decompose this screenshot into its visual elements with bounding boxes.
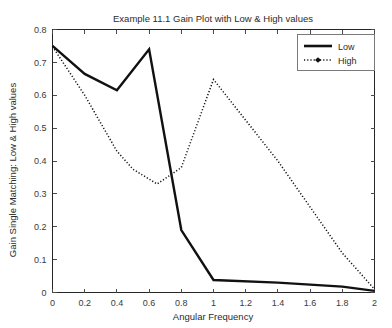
x-tick-label: 0.2 bbox=[78, 298, 91, 308]
series-line-low bbox=[53, 46, 375, 291]
legend-box bbox=[298, 35, 375, 71]
legend-label-low: Low bbox=[338, 42, 355, 52]
x-tick-label: 1.4 bbox=[272, 298, 285, 308]
x-axis-ticks: 00.20.40.60.811.21.41.61.82 bbox=[50, 30, 377, 308]
x-axis-title: Angular Frequency bbox=[173, 311, 254, 322]
x-tick-label: 0.8 bbox=[175, 298, 188, 308]
y-tick-label: 0.3 bbox=[34, 189, 47, 199]
y-tick-label: 0.6 bbox=[34, 90, 47, 100]
chart-legend: Low High bbox=[298, 35, 375, 71]
y-tick-label: 0.8 bbox=[34, 25, 47, 35]
y-tick-label: 0.2 bbox=[34, 222, 47, 232]
y-tick-label: 0.5 bbox=[34, 123, 47, 133]
data-series-layer bbox=[53, 46, 375, 291]
chart-figure: Example 11.1 Gain Plot with Low & High v… bbox=[0, 0, 392, 328]
y-tick-label: 0.4 bbox=[34, 156, 47, 166]
gain-plot-chart: Example 11.1 Gain Plot with Low & High v… bbox=[0, 0, 392, 328]
x-tick-label: 0.6 bbox=[143, 298, 156, 308]
x-tick-label: 2 bbox=[372, 298, 377, 308]
y-axis-title: Gain Single Matching: Low & High values bbox=[7, 83, 18, 258]
chart-title: Example 11.1 Gain Plot with Low & High v… bbox=[113, 13, 313, 24]
x-tick-label: 1.2 bbox=[239, 298, 252, 308]
y-tick-label: 0.7 bbox=[34, 58, 47, 68]
x-tick-label: 1.6 bbox=[304, 298, 317, 308]
x-tick-label: 0.4 bbox=[111, 298, 124, 308]
legend-label-high: High bbox=[338, 56, 357, 66]
y-tick-label: 0 bbox=[41, 288, 46, 298]
x-tick-label: 1.8 bbox=[336, 298, 349, 308]
x-tick-label: 1 bbox=[211, 298, 216, 308]
x-tick-label: 0 bbox=[50, 298, 55, 308]
y-tick-label: 0.1 bbox=[34, 255, 47, 265]
